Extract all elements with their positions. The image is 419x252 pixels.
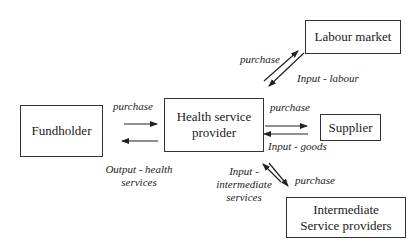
node-labour-market: Labour market	[305, 20, 401, 54]
node-labour-label: Labour market	[315, 29, 392, 45]
label-labour-purchase: purchase	[240, 53, 280, 66]
label-fund-output-line2: services	[100, 176, 178, 189]
node-provider-label: Health service provider	[169, 109, 259, 141]
node-intermediate-service-providers: Intermediate Service providers	[286, 197, 406, 238]
label-intermediate-input-line3: services	[216, 191, 272, 204]
label-supplier-input: Input - goods	[268, 140, 327, 153]
label-intermediate-purchase: purchase	[295, 174, 335, 187]
label-intermediate-input-line2: intermediate	[216, 178, 272, 191]
label-fund-output-line1: Output - health	[100, 163, 178, 176]
label-intermediate-input-line1: Input -	[216, 165, 272, 178]
node-fundholder: Fundholder	[20, 105, 103, 157]
node-intermediate-label: Intermediate Service providers	[293, 202, 399, 234]
label-intermediate-input: Input - intermediate services	[216, 165, 272, 204]
label-fund-purchase: purchase	[113, 100, 153, 113]
label-fund-output: Output - health services	[100, 163, 178, 189]
node-fundholder-label: Fundholder	[32, 123, 92, 139]
label-supplier-purchase: purchase	[270, 101, 310, 114]
node-supplier: Supplier	[320, 114, 381, 141]
label-labour-input: Input - labour	[297, 72, 359, 85]
node-supplier-label: Supplier	[328, 120, 372, 136]
node-health-service-provider: Health service provider	[164, 98, 264, 152]
